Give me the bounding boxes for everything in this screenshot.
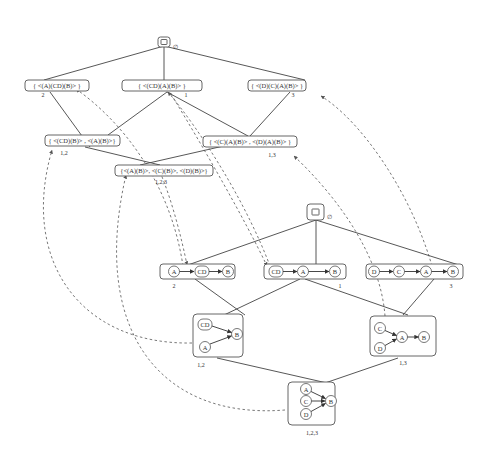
upper-node-1-2-3[interactable]: {<(A)(B)>, <(C)(B)>, <(D)(B)>} 1,2,3: [115, 165, 213, 185]
upper-node-2[interactable]: { <(A)(CD)(B)> } 2: [25, 80, 89, 98]
seq-node: A: [400, 334, 405, 341]
lower-node-2[interactable]: A CD B 2: [160, 264, 235, 289]
node-label: { <(CD)(B)> , <(A)(B)>}: [48, 137, 115, 145]
seq-node: C: [397, 268, 401, 275]
node-index: 3: [292, 92, 295, 98]
lower-root[interactable]: ∅: [307, 204, 332, 220]
empty-set-symbol: ∅: [327, 214, 332, 220]
node-label: { <(A)(CD)(B)> }: [33, 82, 81, 90]
seq-node: D: [378, 345, 383, 352]
lower-node-1-2-3[interactable]: A C D B 1,2,3: [288, 382, 337, 436]
seq-node: B: [451, 268, 456, 275]
seq-node: B: [333, 268, 338, 275]
seq-node: C: [378, 325, 382, 332]
seq-node: B: [235, 331, 240, 338]
lower-node-1-2[interactable]: CD A B 1,2: [193, 314, 243, 368]
lattice-diagram: ∅ { <(A)(CD)(B)> } 2 { <(CD)(A)(B)> } 1 …: [0, 0, 489, 452]
seq-node: C: [304, 398, 308, 405]
node-label: {<(A)(B)>, <(C)(B)>, <(D)(B)>}: [120, 167, 207, 175]
node-index: 1,3: [399, 360, 407, 366]
seq-node: B: [329, 398, 334, 405]
seq-node: D: [372, 268, 377, 275]
lower-lattice-edges: [185, 220, 462, 383]
lower-node-1-3[interactable]: C D A B 1,3: [370, 316, 436, 366]
upper-node-1-3[interactable]: { <(C)(A)(B)> , <(D)(A)(B)> } 1,3: [203, 136, 297, 158]
lower-node-3[interactable]: D C A B 3: [366, 264, 463, 289]
upper-root[interactable]: ∅: [158, 37, 178, 50]
seq-node: CD: [200, 321, 209, 328]
seq-node: A: [172, 268, 177, 275]
seq-node: A: [301, 268, 306, 275]
node-label: { <(C)(A)(B)> , <(D)(A)(B)> }: [209, 138, 291, 146]
seq-node: B: [422, 334, 427, 341]
node-index: 2: [42, 92, 45, 98]
node-index: 1: [185, 92, 188, 98]
node-index: 1,2,3: [155, 179, 167, 185]
seq-node: B: [226, 268, 231, 275]
node-index: 1,2,3: [306, 430, 318, 436]
lower-node-1[interactable]: CD A B 1: [264, 264, 346, 289]
node-label: { <(CD)(A)(B)> }: [138, 82, 186, 90]
node-index: 1,3: [268, 152, 276, 158]
seq-node: A: [203, 344, 208, 351]
node-index: 1,2: [197, 362, 205, 368]
node-index: 1,2: [60, 150, 68, 156]
node-label: { <(D)(C)(A)(B)> }: [251, 82, 303, 90]
empty-set-symbol: ∅: [173, 44, 178, 50]
seq-node: A: [304, 386, 309, 393]
node-index: 1: [339, 283, 342, 289]
upper-node-3[interactable]: { <(D)(C)(A)(B)> } 3: [248, 80, 306, 98]
seq-node: A: [424, 268, 429, 275]
seq-node: CD: [271, 268, 280, 275]
seq-node: D: [304, 411, 309, 418]
seq-node: CD: [197, 268, 206, 275]
node-index: 2: [173, 283, 176, 289]
node-index: 3: [450, 283, 453, 289]
